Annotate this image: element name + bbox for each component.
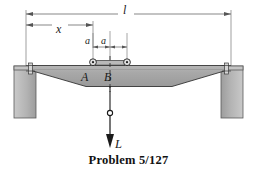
label-a-right: a (101, 35, 106, 46)
beam-problem-figure (0, 0, 257, 176)
label-point-A: A (81, 70, 88, 85)
figure-background (0, 0, 257, 176)
roller-A-hub (92, 61, 94, 63)
roller-B-hub (126, 61, 128, 63)
right-end-plate (225, 63, 229, 74)
figure-caption: Problem 5/127 (0, 153, 257, 168)
label-a-left: a (85, 35, 90, 46)
label-span-l: l (123, 3, 126, 18)
label-distance-x: x (56, 22, 61, 37)
left-end-plate (29, 63, 33, 74)
roller-pin-B (124, 59, 131, 66)
roller-pin-A (90, 59, 97, 66)
label-point-B: B (104, 70, 111, 85)
label-load-L: L (115, 137, 122, 152)
